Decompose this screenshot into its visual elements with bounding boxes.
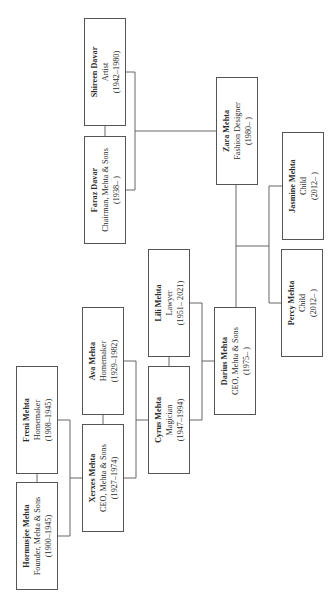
person-role: Child (298, 177, 309, 195)
person-years: (2012– ) (308, 289, 319, 317)
person-role: Chairman, Mehta & Sons (100, 148, 111, 232)
person-name: Zara Mehta (221, 110, 232, 152)
person-role: CEO, Mehta & Sons (230, 327, 241, 395)
person-years: (1947–1994) (175, 399, 186, 441)
person-role: CEO, Mehta & Sons (98, 444, 109, 512)
person-name: Freni Mehta (21, 398, 32, 442)
family-tree-diagram: Hormusjee Mehta Founder, Mehta & Sons (1… (0, 0, 335, 606)
person-years: (1980– ) (243, 117, 254, 145)
person-box-xerxes: Xerxes Mehta CEO, Mehta & Sons (1927–197… (82, 424, 124, 532)
person-box-freni: Freni Mehta Homemaker (1908–1945) (16, 366, 58, 474)
person-name: Xerxes Mehta (87, 454, 98, 503)
person-name: Percy Mehta (286, 281, 297, 326)
person-name: Ava Mehta (87, 342, 98, 380)
person-years: (1929–1982) (109, 340, 120, 382)
person-box-darius: Darius Mehta CEO, Mehta & Sons (1975– ) (214, 307, 256, 415)
person-role: Founder, Mehta & Sons (32, 497, 43, 575)
person-role: Fashion Designer (232, 102, 243, 160)
person-years: (1951– 2021) (175, 281, 186, 325)
person-role: Lawyer (164, 291, 175, 316)
person-years: (1900–1945) (43, 515, 54, 557)
person-role: Homemaker (98, 341, 109, 381)
person-box-percy: Percy Mehta Child (2012– ) (281, 249, 323, 357)
person-name: Cyrus Mehta (153, 397, 164, 443)
person-box-zara: Zara Mehta Fashion Designer (1980– ) (216, 77, 258, 185)
person-name: Jasmine Mehta (287, 159, 298, 212)
person-years: (1975– ) (241, 347, 252, 375)
person-role: Artist (100, 63, 111, 82)
person-name: Hormusjee Mehta (21, 504, 32, 567)
person-box-jasmine: Jasmine Mehta Child (2012– ) (282, 132, 324, 240)
person-role: Homemaker (32, 400, 43, 440)
person-name: Darius Mehta (219, 337, 230, 385)
person-name: Lili Mehta (153, 284, 164, 321)
person-box-hormusjee: Hormusjee Mehta Founder, Mehta & Sons (1… (16, 482, 58, 590)
person-years: (2012– ) (309, 172, 320, 200)
person-years: (1927–1974) (109, 457, 120, 499)
person-box-faraz: Faraz Davar Chairman, Mehta & Sons (1938… (84, 136, 126, 244)
person-box-lili: Lili Mehta Lawyer (1951– 2021) (148, 249, 190, 357)
person-box-ava: Ava Mehta Homemaker (1929–1982) (82, 307, 124, 415)
person-name: Faraz Davar (89, 168, 100, 212)
person-years: (1938– ) (111, 176, 122, 204)
person-box-cyrus: Cyrus Mehta Magician (1947–1994) (148, 366, 190, 474)
person-role: Child (297, 294, 308, 312)
person-years: (1908–1945) (43, 399, 54, 441)
person-box-shireen: Shireen Davar Artist (1942–1980) (84, 18, 126, 126)
person-years: (1942–1980) (111, 51, 122, 93)
person-name: Shireen Davar (89, 47, 100, 98)
person-role: Magician (164, 405, 175, 436)
